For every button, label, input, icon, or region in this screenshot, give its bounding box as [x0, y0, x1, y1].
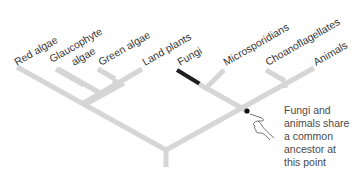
- taxon-label-animals: Animals: [311, 39, 349, 68]
- branch-fungi: [177, 70, 200, 84]
- callout-line: this point: [284, 156, 362, 169]
- callout-line: ancestor at: [284, 143, 362, 156]
- pointing-hand-icon: [250, 114, 274, 140]
- branch-plants-clade: [17, 67, 166, 150]
- callout-line: a common: [284, 130, 362, 143]
- branch-choanoflagellates: [266, 70, 285, 81]
- common-ancestor-node: [244, 108, 249, 113]
- branch-glauco-leaf: [58, 69, 100, 93]
- callout-line: animals share: [284, 117, 362, 130]
- branch-microsporidians: [206, 70, 224, 88]
- branch-green-leaf: [98, 69, 115, 79]
- callout-line: Fungi and: [284, 104, 362, 117]
- common-ancestor-callout: Fungi and animals share a common ancesto…: [284, 104, 362, 169]
- branch-fungi-clade: [206, 88, 247, 111]
